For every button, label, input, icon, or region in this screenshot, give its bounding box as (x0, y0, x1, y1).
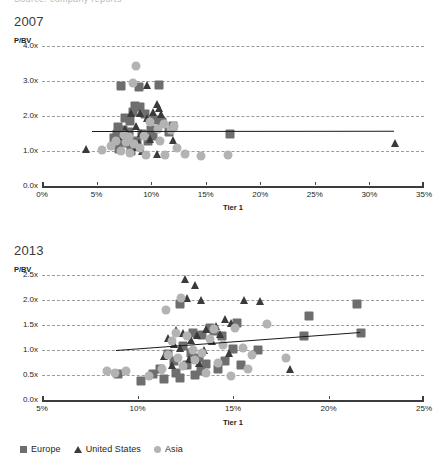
legend-item: Europe (20, 444, 61, 454)
data-point-circle (122, 367, 131, 376)
circle-marker-icon (154, 446, 161, 453)
legend: EuropeUnited StatesAsia (20, 444, 183, 454)
data-point-circle (180, 149, 189, 158)
data-point-circle (209, 325, 218, 334)
x-axis-tick-mark (329, 396, 330, 399)
data-point-circle (213, 358, 222, 367)
x-axis-tick-label: 5% (77, 190, 117, 199)
gridline (42, 81, 424, 82)
y-axis-tick-label: 2.0x (8, 295, 38, 304)
data-point-triangle (82, 145, 90, 153)
data-point-triangle (225, 349, 233, 357)
legend-item-label: Europe (31, 444, 61, 454)
x-axis-label-2013: Tier 1 (42, 418, 424, 427)
x-axis-tick-label: 35% (404, 190, 438, 199)
legend-item: Asia (154, 444, 183, 454)
data-point-triangle (168, 361, 176, 369)
data-point-square (353, 300, 362, 309)
x-axis-line (42, 400, 424, 402)
x-axis-tick-mark (97, 182, 98, 185)
x-axis-tick-mark (151, 182, 152, 185)
x-axis-tick-mark (315, 182, 316, 185)
x-axis-cap (422, 182, 424, 186)
x-axis-tick-label: 15% (186, 190, 226, 199)
x-axis-cap (42, 182, 44, 186)
y-axis-tick-label: 1.0x (8, 345, 38, 354)
legend-item-label: United States (86, 444, 141, 454)
data-point-circle (162, 306, 171, 315)
x-axis-tick-label: 10% (118, 404, 158, 413)
data-point-triangle (143, 81, 151, 89)
data-point-circle (248, 351, 257, 360)
x-axis-tick-label: 30% (349, 190, 389, 199)
data-point-circle (202, 368, 211, 377)
data-point-circle (263, 320, 272, 329)
data-point-circle (131, 62, 140, 71)
data-point-circle (179, 362, 188, 371)
data-point-square (175, 373, 184, 382)
x-axis-tick-mark (260, 182, 261, 185)
data-point-circle (244, 365, 253, 374)
y-axis-tick-label: 0.5x (8, 370, 38, 379)
data-point-triangle (391, 139, 399, 147)
data-point-circle (190, 356, 199, 365)
x-axis-tick-label: 0% (22, 190, 62, 199)
y-axis-tick-label: 2.0x (8, 111, 38, 120)
x-axis-line (42, 186, 424, 188)
data-point-triangle (286, 365, 294, 373)
data-point-circle (144, 372, 153, 381)
square-marker-icon (20, 446, 27, 453)
data-point-triangle (191, 281, 199, 289)
y-axis-tick-label: 3.0x (8, 76, 38, 85)
data-point-triangle (197, 296, 205, 304)
x-axis-label-2007: Tier 1 (42, 203, 424, 212)
data-point-circle (161, 151, 170, 160)
data-point-circle (139, 132, 148, 141)
gridline (42, 275, 424, 276)
x-axis-cap (422, 396, 424, 400)
clipped-header-text: Source: company reports (14, 0, 121, 4)
x-axis-tick-label: 10% (131, 190, 171, 199)
triangle-marker-icon (74, 446, 82, 453)
y-axis-tick-label: 4.0x (8, 41, 38, 50)
data-point-triangle (127, 109, 135, 117)
data-point-circle (177, 293, 186, 302)
chart-page: Source: company reports 2007 P/BV 0.0x1.… (0, 0, 438, 470)
x-axis-tick-mark (233, 396, 234, 399)
x-axis-tick-mark (138, 396, 139, 399)
x-axis-tick-label: 5% (22, 404, 62, 413)
data-point-circle (197, 151, 206, 160)
data-point-circle (227, 372, 236, 381)
data-point-triangle (240, 296, 248, 304)
data-point-circle (198, 348, 207, 357)
data-point-circle (282, 353, 291, 362)
data-point-triangle (157, 110, 165, 118)
legend-item-label: Asia (165, 444, 183, 454)
y-axis-tick-label: 1.0x (8, 146, 38, 155)
x-axis-tick-mark (369, 182, 370, 185)
y-axis-tick-label: 1.5x (8, 320, 38, 329)
data-point-circle (128, 78, 137, 87)
plot-area-2007: 0.0x1.0x2.0x3.0x4.0x0%5%10%15%20%25%30%3… (42, 46, 424, 186)
x-axis-tick-mark (206, 182, 207, 185)
x-axis-tick-label: 15% (213, 404, 253, 413)
gridline (42, 300, 424, 301)
data-point-square (160, 375, 169, 384)
data-point-circle (141, 150, 150, 159)
data-point-square (221, 357, 230, 366)
x-axis-tick-label: 25% (295, 190, 335, 199)
legend-item: United States (74, 444, 141, 454)
panel-title-2007: 2007 (14, 14, 44, 29)
data-point-circle (173, 353, 182, 362)
data-point-circle (223, 151, 232, 160)
data-point-circle (164, 351, 173, 360)
data-point-triangle (256, 297, 264, 305)
gridline (42, 46, 424, 47)
data-point-circle (116, 147, 125, 156)
data-point-circle (153, 125, 162, 134)
gridline (42, 116, 424, 117)
data-point-circle (126, 148, 135, 157)
data-point-square (154, 80, 163, 89)
data-point-circle (106, 141, 115, 150)
data-point-circle (167, 337, 176, 346)
